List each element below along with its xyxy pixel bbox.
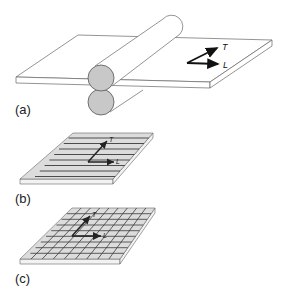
- l-arrow-icon: [187, 63, 218, 64]
- panel-label-c: (c): [15, 271, 30, 286]
- l-axis-label: L: [103, 232, 107, 239]
- t-axis-label: T: [109, 136, 114, 143]
- panel-a: T L (a): [15, 15, 272, 117]
- panel-c: T L (c): [15, 208, 155, 286]
- panel-b: T L (b): [15, 133, 153, 206]
- diagram-canvas: T L (a): [0, 0, 287, 294]
- panel-label-b: (b): [15, 191, 31, 206]
- striped-plate: [20, 133, 153, 184]
- l-axis-label: L: [223, 60, 228, 70]
- t-axis-label: T: [92, 211, 97, 218]
- l-axis-label: L: [116, 158, 120, 165]
- lower-roll: [88, 89, 145, 115]
- panel-label-a: (a): [15, 102, 31, 117]
